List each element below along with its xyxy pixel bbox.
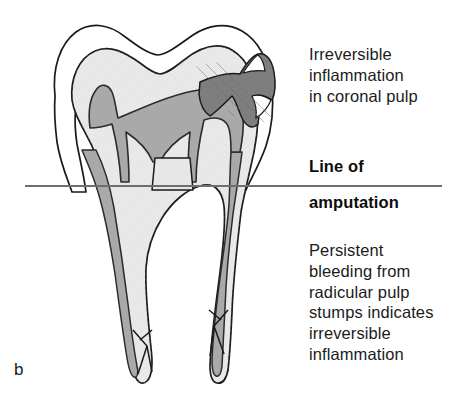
callout-line-of: Line of: [309, 157, 364, 176]
callout-amputation: amputation: [309, 193, 399, 212]
callout-coronal-pulp: Irreversible inflammation in coronal pul…: [309, 44, 418, 106]
callout-radicular-pulp: Persistent bleeding from radicular pulp …: [309, 240, 434, 365]
panel-label: b: [14, 360, 23, 380]
figure-panel-b: Irreversible inflammation in coronal pul…: [0, 0, 471, 397]
